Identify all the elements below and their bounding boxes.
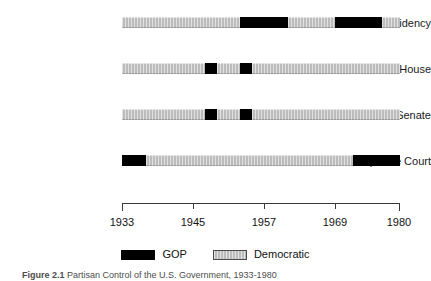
bar-segment-dem [217,63,241,74]
figure-caption: Figure 2.1 Partisan Control of the U.S. … [22,270,422,281]
x-axis-tick [193,203,194,209]
legend-label-democratic: Democratic [254,249,310,260]
legend-item-democratic: Democratic [213,249,310,260]
bar-presidency [122,17,400,28]
bar-segment-gop [240,63,252,74]
x-axis-tick-label-1969: 1969 [313,217,357,228]
bar-supreme-court [122,155,400,166]
bar-senate [122,109,400,120]
bar-segment-gop [353,155,400,166]
bar-segment-dem [288,17,335,28]
figure-caption-text: Partisan Control of the U.S. Government,… [67,270,277,280]
x-axis-tick [264,203,265,209]
bar-segment-dem [252,63,400,74]
bar-segment-dem [252,109,400,120]
bar-segment-gop [240,17,287,28]
legend-item-gop: GOP [121,249,186,260]
bar-segment-dem [122,17,240,28]
x-axis-tick [335,203,336,209]
bar-segment-dem [122,63,205,74]
figure-caption-number: Figure 2.1 [22,270,65,280]
bar-segment-gop [335,17,382,28]
bar-segment-gop [205,63,217,74]
chart-legend: GOP Democratic [0,249,431,260]
bar-segment-gop [240,109,252,120]
x-axis-tick-label-1980: 1980 [377,217,421,228]
legend-swatch-democratic-icon [213,250,247,260]
bar-segment-dem [382,17,400,28]
legend-swatch-gop-icon [121,250,155,260]
bar-segment-gop [205,109,217,120]
bar-segment-dem [217,109,241,120]
x-axis-tick [399,203,400,211]
bar-segment-dem [146,155,353,166]
x-axis-tick-label-1957: 1957 [242,217,286,228]
x-axis-line [122,203,400,204]
x-axis-tick [122,203,123,211]
legend-label-gop: GOP [162,249,186,260]
bar-house [122,63,400,74]
x-axis-tick-label-1945: 1945 [171,217,215,228]
bar-segment-gop [122,155,146,166]
bar-segment-dem [122,109,205,120]
x-axis-tick-label-1933: 1933 [100,217,144,228]
